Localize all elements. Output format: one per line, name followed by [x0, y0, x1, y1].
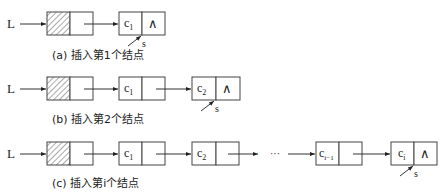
caption-c: (c) 插入第i个结点: [52, 176, 139, 190]
head-pointer-label: L: [7, 146, 15, 161]
panel-c: L c1 c2 ··· ci−1 ci ∧: [7, 142, 437, 190]
caption-a: (a) 插入第1个结点: [52, 48, 144, 62]
linked-list-diagram: L c1 ∧ s (a) 插入第1个结点 L c1: [0, 0, 446, 192]
head-pointer-label: L: [7, 16, 15, 31]
head-pointer-label: L: [7, 81, 15, 96]
caption-b: (b) 插入第2个结点: [52, 112, 144, 126]
ellipsis: ···: [270, 148, 280, 159]
panel-b: L c1 c2 ∧ s (b) 插入第2个结点: [7, 77, 240, 126]
pointer-s-arrow: [128, 36, 141, 46]
panel-a: L c1 ∧ s (a) 插入第1个结点: [7, 12, 165, 62]
list-node-c-i: ci ∧: [391, 142, 437, 165]
list-node-c2: c2 ∧: [192, 77, 240, 100]
pointer-s-arrow: [201, 101, 214, 111]
pointer-s-label: s: [142, 38, 146, 49]
null-pointer-icon: ∧: [222, 81, 232, 96]
head-node-hatched-field: [47, 12, 70, 35]
head-node-hatched-field: [47, 142, 70, 165]
null-pointer-icon: ∧: [148, 16, 158, 31]
null-pointer-icon: ∧: [420, 146, 430, 161]
head-node-hatched-field: [47, 77, 70, 100]
pointer-s-label: s: [215, 103, 219, 114]
list-node-c1: c1 ∧: [119, 12, 165, 35]
pointer-s-label: s: [414, 168, 418, 179]
pointer-s-arrow: [400, 166, 413, 176]
